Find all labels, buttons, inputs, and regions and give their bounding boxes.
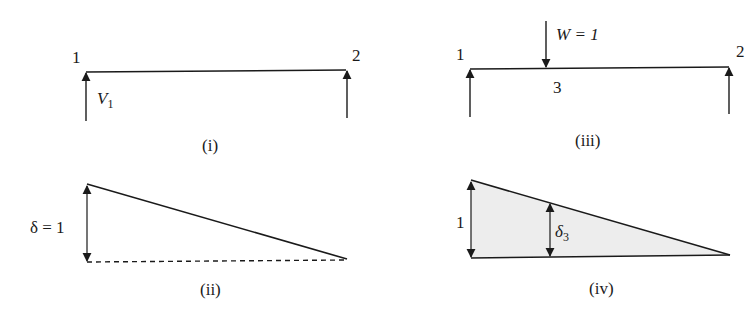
node-label-2: 2 xyxy=(352,46,361,65)
node-label-1: 1 xyxy=(72,48,81,67)
panel-ii: δ = 1 (ii) xyxy=(30,184,347,299)
displacement-label: δ = 1 xyxy=(30,218,65,237)
deflected-line xyxy=(87,184,347,259)
delta-subscript: 3 xyxy=(563,230,569,244)
influence-line-diagram: 1 2 V1 (i) δ = 1 (ii) W = 1 1 2 3 (iii) … xyxy=(0,0,755,318)
load-label: W = 1 xyxy=(556,25,599,44)
unit-ordinate-label: 1 xyxy=(456,213,465,232)
caption-iii: (iii) xyxy=(575,131,601,150)
caption-iv: (iv) xyxy=(589,279,614,298)
caption-i: (i) xyxy=(202,136,218,155)
reaction-subscript: 1 xyxy=(107,97,113,111)
node-label-2: 2 xyxy=(736,42,745,61)
baseline-dashed xyxy=(87,260,347,262)
beam xyxy=(470,67,729,69)
caption-ii: (ii) xyxy=(200,280,221,299)
reaction-label-v1: V1 xyxy=(97,89,113,111)
beam xyxy=(86,70,346,72)
panel-iv: 1 δ3 (iv) xyxy=(456,180,730,298)
panel-i: 1 2 V1 (i) xyxy=(72,46,361,155)
node-label-1: 1 xyxy=(456,45,465,64)
panel-iii: W = 1 1 2 3 (iii) xyxy=(456,21,745,150)
node-label-3: 3 xyxy=(553,78,562,97)
